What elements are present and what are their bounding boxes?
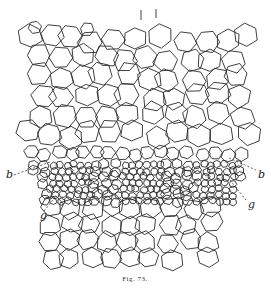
label-b-right: b: [258, 168, 265, 181]
cell: [179, 146, 193, 159]
cell: [150, 191, 157, 198]
cell: [101, 249, 122, 269]
cell: [222, 187, 230, 193]
cell: [95, 106, 119, 127]
cell: [129, 149, 142, 162]
cell: [116, 147, 131, 160]
cell: [210, 123, 233, 144]
label-g-left: g: [40, 209, 47, 222]
cell-mesh: [16, 21, 261, 270]
cell: [182, 70, 206, 91]
cell: [49, 47, 73, 67]
cell: [68, 186, 75, 193]
cell: [120, 185, 128, 192]
cell: [82, 247, 103, 268]
cell: [52, 146, 67, 158]
cell: [230, 107, 255, 129]
cell: [122, 192, 130, 199]
cell: [205, 82, 231, 103]
cell: [149, 24, 171, 48]
cell: [224, 64, 247, 86]
cell: [114, 50, 138, 71]
cell: [198, 232, 219, 253]
cell: [235, 147, 248, 162]
leader-g-right: [230, 180, 246, 200]
cell: [160, 183, 172, 193]
cell: [111, 159, 121, 169]
cell: [118, 63, 140, 85]
cell: [235, 172, 246, 182]
cell: [201, 212, 223, 231]
cell: [76, 146, 90, 158]
figure-caption: Fig. 73.: [122, 275, 148, 283]
cell: [140, 147, 154, 160]
cell: [50, 68, 73, 90]
cell: [97, 84, 121, 106]
cell: [38, 161, 49, 171]
label-b-left: b: [6, 168, 13, 181]
cell: [161, 159, 171, 170]
cell: [71, 167, 79, 174]
cell: [196, 149, 210, 161]
cell: [235, 23, 258, 46]
cell: [144, 197, 152, 204]
cell: [58, 168, 65, 176]
cell: [193, 191, 200, 199]
cell: [18, 24, 42, 48]
cell: [174, 32, 197, 52]
cell: [143, 101, 164, 125]
cell: [135, 161, 142, 169]
cell: [76, 85, 99, 106]
leader-b-right: [229, 158, 256, 170]
cell: [157, 235, 178, 253]
cell: [41, 25, 64, 46]
cell: [228, 85, 250, 109]
cell-diagram: b b g g Fig. 73.: [0, 0, 271, 288]
cell: [88, 179, 99, 189]
cell: [31, 86, 57, 107]
cell: [151, 161, 158, 168]
cell: [124, 28, 145, 49]
cell: [120, 247, 140, 267]
cell: [70, 174, 77, 181]
cell: [81, 23, 94, 35]
cell: [230, 174, 238, 180]
cell: [144, 88, 166, 111]
cell: [222, 174, 230, 181]
cell: [59, 191, 67, 198]
cell: [196, 31, 220, 52]
cell: [221, 161, 229, 168]
cell: [100, 147, 116, 159]
cell: [197, 247, 219, 267]
cell: [16, 120, 40, 141]
cell: [182, 180, 193, 190]
cell: [59, 248, 78, 268]
cell: [38, 123, 62, 145]
cell: [185, 84, 209, 105]
cell: [221, 51, 245, 73]
cell: [138, 68, 161, 91]
cell: [193, 162, 200, 169]
cell: [207, 101, 229, 124]
cell: [49, 198, 57, 205]
cell: [43, 250, 64, 270]
cell: [181, 229, 201, 250]
cell: [132, 185, 139, 192]
cell: [53, 105, 76, 128]
cell: [37, 148, 51, 161]
cell: [162, 195, 173, 205]
cell: [143, 161, 151, 168]
cell: [98, 121, 120, 143]
cell: [221, 179, 228, 186]
label-g-right: g: [248, 198, 255, 211]
